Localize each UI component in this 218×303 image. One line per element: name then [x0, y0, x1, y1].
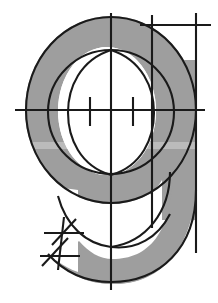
glyph-fill-layer	[20, 16, 197, 284]
construction-diagram-canvas	[0, 0, 218, 303]
typographic-construction-figure	[0, 0, 218, 303]
